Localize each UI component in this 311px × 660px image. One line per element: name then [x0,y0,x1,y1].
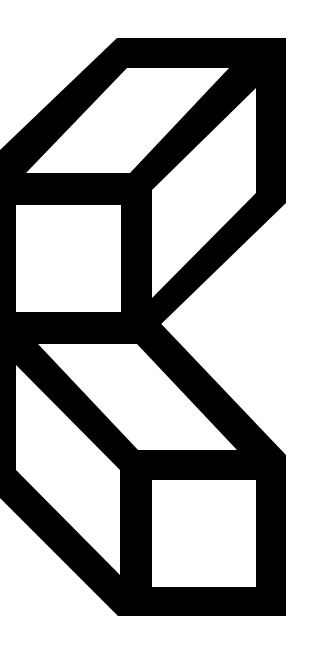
bottom-cube-front-face [152,480,256,587]
top-cube-front-face-overlay [16,205,121,312]
k-cube-logo: Isometric K logo made of two stacked out… [0,0,311,660]
logo-graphic [0,0,311,660]
